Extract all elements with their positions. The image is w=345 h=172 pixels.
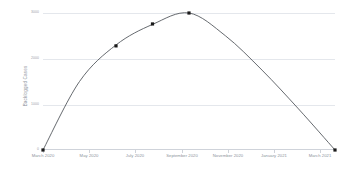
y-tick-label-3000: 3000: [31, 11, 39, 14]
plot-area: 3000 2000 1000 0 March 2020 May 2020 Jul…: [43, 13, 335, 150]
data-point-marker: [187, 11, 190, 14]
data-point-marker: [41, 148, 44, 151]
y-tick-label-1000: 1000: [31, 103, 39, 106]
x-tick-label-march-2020: March 2020: [32, 154, 55, 158]
x-tick-label-may-2020: May 2020: [80, 154, 99, 158]
data-point-markers: [41, 11, 336, 151]
x-tick-label-march-2021: March 2021: [309, 154, 332, 158]
y-tick-label-2000: 2000: [31, 57, 39, 60]
chart-container: Backlogged Cases 3000 2000 1000 0 March …: [0, 0, 345, 172]
x-tick-label-november-2020: November 2020: [213, 154, 243, 158]
data-point-marker: [333, 148, 336, 151]
x-tick-label-july-2020: July 2020: [126, 154, 144, 158]
x-tick-label-september-2020: September 2020: [166, 154, 198, 158]
data-series-line: [43, 13, 335, 150]
data-point-marker: [151, 22, 154, 25]
x-tick-label-january-2021: January 2021: [261, 154, 287, 158]
y-tick-label-0: 0: [37, 148, 39, 151]
y-axis-title: Backlogged Cases: [24, 66, 29, 107]
series-path: [43, 13, 335, 150]
data-point-marker: [114, 44, 117, 47]
